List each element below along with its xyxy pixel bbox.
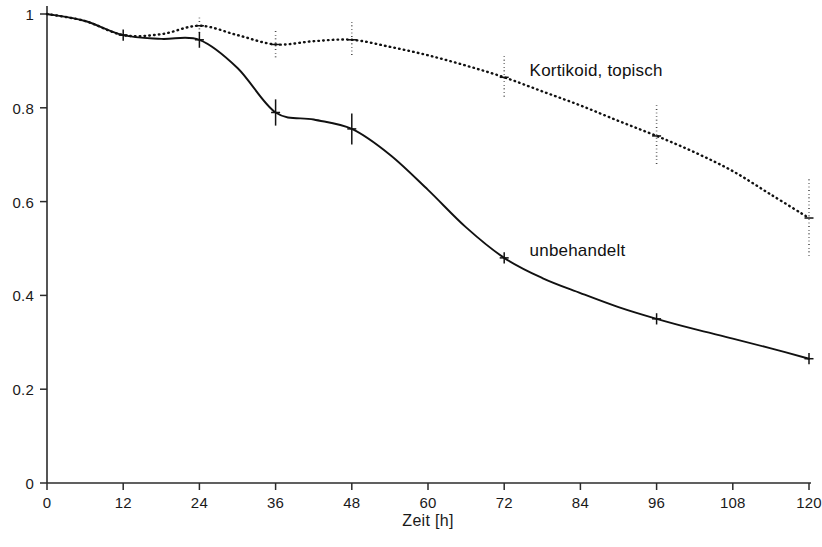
x-axis-tick-label: 24 xyxy=(191,494,208,511)
plot-area xyxy=(0,0,822,547)
x-axis-tick-label: 120 xyxy=(796,494,822,511)
x-axis-tick-label: 72 xyxy=(496,494,513,511)
x-axis-tick-label: 96 xyxy=(648,494,665,511)
series-label-1: unbehandelt xyxy=(530,241,626,261)
x-axis-tick-label: 108 xyxy=(720,494,746,511)
x-axis-tick-label: 60 xyxy=(419,494,436,511)
x-axis-tick-label: 84 xyxy=(572,494,589,511)
data-series xyxy=(47,14,814,364)
series-line-2 xyxy=(47,14,809,218)
axes xyxy=(40,6,811,490)
y-axis-tick-label: 1 xyxy=(0,6,34,23)
y-axis-tick-label: 0.4 xyxy=(0,287,34,304)
x-axis-title: Zeit [h] xyxy=(402,512,453,530)
series-label-2: Kortikoid, topisch xyxy=(530,61,663,81)
x-axis-tick-label: 0 xyxy=(43,494,52,511)
chart-figure: 00.20.40.60.81 01224364860728496108120 u… xyxy=(0,0,822,547)
y-axis-tick-label: 0.8 xyxy=(0,99,34,116)
x-axis-tick-label: 36 xyxy=(267,494,284,511)
y-axis-tick-label: 0.2 xyxy=(0,381,34,398)
y-axis-tick-label: 0.6 xyxy=(0,193,34,210)
x-axis-tick-label: 48 xyxy=(343,494,360,511)
x-axis-tick-label: 12 xyxy=(115,494,132,511)
series-line-1 xyxy=(47,14,809,359)
y-axis-tick-label: 0 xyxy=(0,475,34,492)
